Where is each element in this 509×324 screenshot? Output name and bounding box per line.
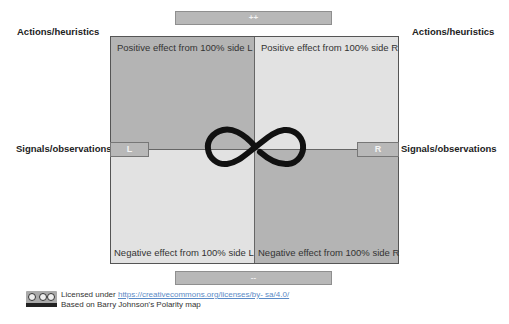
infinity-icon — [203, 122, 308, 172]
quadrant-bottom-left-text: Negative effect from 100% side L — [114, 247, 254, 258]
top-bar-plus-plus: ++ — [175, 11, 332, 25]
left-actions-label: Actions/heuristics — [17, 26, 99, 37]
quadrant-top-left-text: Positive effect from 100% side L — [117, 42, 253, 53]
attribution-line: Based on Barry Johnson's Polarity map — [61, 300, 289, 310]
right-actions-label: Actions/heuristics — [412, 26, 494, 37]
bottom-bar-minus-minus: -- — [175, 271, 332, 285]
license-prefix: Licensed under — [61, 290, 118, 299]
right-pole-tab: R — [357, 142, 399, 157]
left-pole-tab: L — [110, 142, 149, 157]
quadrant-bottom-right-text: Negative effect from 100% side R — [258, 247, 399, 258]
left-signals-label: Signals/observations — [16, 143, 112, 154]
cc-by-sa-badge-icon — [26, 291, 57, 307]
license-line: Licensed under https://creativecommons.o… — [61, 290, 289, 300]
license-link[interactable]: https://creativecommons.org/licenses/by-… — [118, 290, 289, 299]
quadrant-top-right-text: Positive effect from 100% side R — [261, 42, 398, 53]
right-signals-label: Signals/observations — [401, 143, 497, 154]
